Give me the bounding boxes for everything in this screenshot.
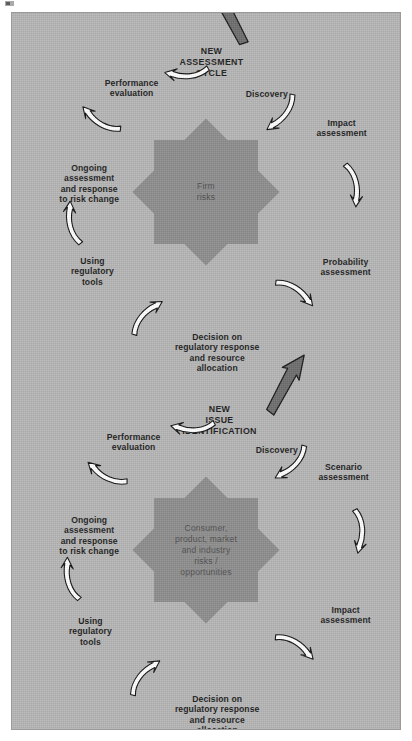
diagram-canvas: Firm risks Discovery Impact assessment P… [12,13,400,729]
consumer-risk-star: Consumer, product, market and industry r… [154,498,258,602]
node-firm-using-tools: Using regulatory tools [55,256,129,287]
figure-page: Firm risks Discovery Impact assessment P… [0,0,412,741]
node-consumer-performance-evaluation: Performance evaluation [93,432,175,453]
firm-risk-cycle: Firm risks Discovery Impact assessment P… [12,13,400,371]
flow-arrow-a6 [78,97,126,143]
flow-arrow-b6 [84,452,133,496]
node-firm-probability-assessment: Probability assessment [308,257,384,278]
flow-arrow-a5 [63,201,85,248]
flow-arrow-b3 [270,623,318,669]
flow-arrow-b5 [60,556,83,603]
scan-speck-inner [6,2,10,5]
node-consumer-decision: Decision on regulatory response and reso… [169,694,265,730]
consumer-risk-cycle: Consumer, product, market and industry r… [12,371,400,729]
node-firm-performance-evaluation: Performance evaluation [91,78,173,99]
node-consumer-using-tools: Using regulatory tools [53,616,127,647]
diagram-frame: Firm risks Discovery Impact assessment P… [11,12,401,730]
node-consumer-scenario-assessment: Scenario assessment [305,462,383,483]
node-firm-impact-assessment: Impact assessment [305,118,379,139]
node-consumer-ongoing-assessment: Ongoing assessment and response to risk … [46,515,132,557]
flow-arrow-a2 [341,161,363,208]
flow-arrow-a4 [122,296,171,340]
node-consumer-impact-assessment: Impact assessment [308,605,384,626]
flow-arrow-b4 [120,656,168,701]
node-firm-decision: Decision on regulatory response and reso… [169,332,265,374]
node-firm-ongoing-assessment: Ongoing assessment and response to risk … [46,163,132,205]
firm-risk-star-label: Firm risks [146,181,266,203]
flow-arrow-b2 [345,506,371,554]
consumer-risk-star-label: Consumer, product, market and industry r… [146,523,266,578]
firm-risk-star: Firm risks [154,140,258,244]
